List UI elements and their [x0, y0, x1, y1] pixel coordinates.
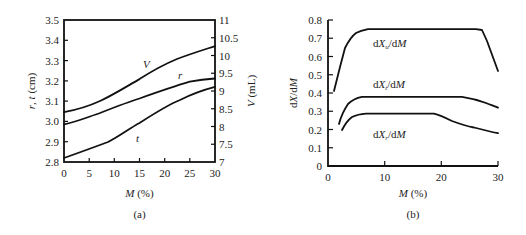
tick-label: 10: [379, 171, 391, 183]
curve-V: [64, 46, 215, 112]
tick-label: 0.8: [308, 14, 322, 26]
curve-dXu-dM: [334, 29, 498, 91]
series-label-t: t: [136, 132, 140, 144]
figure: 3.5 3.4 3.3 3.2 3.1 3.0 2.9 2.8 11 10.5 …: [0, 0, 526, 235]
tick-label: 5: [86, 167, 92, 179]
tick-label: 8: [219, 121, 225, 133]
chart-b-y-tick-labels: 0.8 0.7 0.6 0.5 0.4 0.3 0.2 0.1 0: [308, 14, 322, 172]
tick-label: 30: [493, 171, 505, 183]
chart-a: 3.5 3.4 3.3 3.2 3.1 3.0 2.9 2.8 11 10.5 …: [25, 14, 258, 221]
tick-label: 10: [109, 167, 121, 179]
tick-label: 25: [184, 167, 196, 179]
curve-dXr-dM: [342, 114, 498, 134]
tick-label: 3.5: [45, 14, 59, 26]
tick-label: 2.8: [45, 156, 59, 168]
tick-label: 0.6: [308, 51, 322, 63]
tick-label: 3.0: [45, 115, 59, 127]
tick-label: 20: [436, 171, 448, 183]
tick-label: 0: [317, 160, 323, 172]
chart-a-x-label: M (%): [124, 187, 154, 200]
chart-a-x-tick-labels: 0 5 10 15 20 25 30: [61, 167, 221, 179]
chart-a-y-right-label: V (mL): [245, 75, 258, 107]
tick-label: 0: [325, 171, 331, 183]
chart-b-caption: (b): [407, 208, 420, 221]
tick-label: 8.5: [219, 103, 233, 115]
tick-label: 9: [219, 85, 225, 97]
tick-label: 0.7: [308, 32, 322, 44]
tick-label: 10.5: [219, 32, 239, 44]
tick-label: 3.4: [45, 34, 59, 46]
tick-label: 7.5: [219, 138, 233, 150]
chart-a-frame: [64, 20, 215, 162]
tick-label: 9.5: [219, 67, 233, 79]
series-label-dXt-dM: dXt/dM: [373, 78, 406, 92]
tick-label: 11: [219, 14, 230, 26]
chart-b-axes: [328, 20, 498, 166]
tick-label: 30: [210, 167, 222, 179]
tick-label: 3.1: [45, 95, 59, 107]
chart-b-x-tick-labels: 0 10 20 30: [325, 171, 504, 183]
curve-r: [64, 79, 215, 125]
chart-a-right-tick-labels: 11 10.5 10 9.5 9 8.5 8 7.5 7: [219, 14, 239, 168]
tick-label: 20: [159, 167, 171, 179]
series-label-dXr-dM: dXr/dM: [373, 128, 407, 142]
series-label-V: V: [143, 58, 151, 70]
tick-label: 3.3: [45, 55, 59, 67]
tick-label: 3.2: [45, 75, 59, 87]
chart-b-y-label: dX/dM: [287, 77, 299, 108]
tick-label: 10: [219, 50, 231, 62]
curve-dXt-dM: [339, 97, 498, 124]
chart-a-left-tick-labels: 3.5 3.4 3.3 3.2 3.1 3.0 2.9 2.8: [45, 14, 59, 168]
tick-label: 2.9: [45, 136, 59, 148]
tick-label: 0.5: [308, 69, 322, 81]
tick-label: 0.3: [308, 105, 322, 117]
tick-label: 15: [134, 167, 146, 179]
tick-label: 0.4: [308, 87, 322, 99]
series-label-dXu-dM: dXu/dM: [373, 37, 407, 51]
tick-label: 0.1: [308, 142, 322, 154]
series-label-r: r: [178, 69, 183, 81]
tick-label: 0.2: [308, 124, 322, 136]
tick-label: 0: [61, 167, 67, 179]
chart-a-caption: (a): [133, 208, 146, 221]
chart-b-x-label: M (%): [398, 187, 428, 200]
chart-b: 0.8 0.7 0.6 0.5 0.4 0.3 0.2 0.1 0 0 10 2…: [287, 14, 504, 221]
chart-a-y-left-label: r, t (cm): [25, 72, 38, 109]
